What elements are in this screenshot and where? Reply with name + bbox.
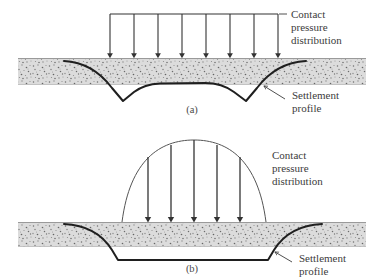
panel-caption-a: (a) — [186, 104, 198, 116]
figure-canvas: Contact pressure distribution Settlement… — [0, 0, 384, 279]
settlement-profile-label-a: Settlement profile — [292, 89, 342, 114]
contact-pressure-label-b: Contact pressure distribution — [272, 149, 323, 187]
pressure-arrows-b — [148, 140, 240, 220]
panel-a: Contact pressure distribution Settlement… — [18, 8, 366, 116]
settlement-profile-label-b: Settlement profile — [299, 252, 349, 277]
pressure-arrows-a — [110, 14, 278, 56]
contact-pressure-label-a: Contact pressure distribution — [291, 8, 342, 46]
panel-b: Contact pressure distribution Settlement… — [18, 140, 366, 277]
settlement-leader-a — [264, 86, 285, 99]
panel-caption-b: (b) — [186, 263, 199, 275]
settlement-leader-b — [275, 252, 292, 262]
